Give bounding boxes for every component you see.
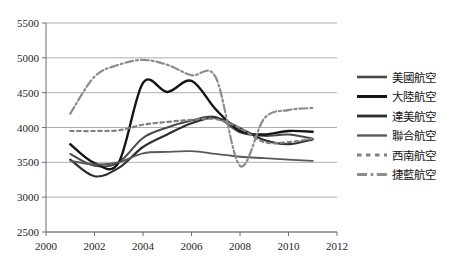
legend-label-1: 美國航空 — [392, 71, 436, 84]
data-series-group — [70, 60, 313, 177]
chart-legend: 美國航空大陸航空達美航空聯合航空西南航空捷藍航空 — [357, 71, 436, 182]
x-axis-tick-label: 2012 — [326, 240, 348, 252]
x-axis-tick-label: 2000 — [35, 240, 58, 252]
gridlines — [46, 23, 337, 232]
y-axis-tick-label: 5000 — [17, 52, 40, 64]
x-axis-tick-label: 2002 — [84, 240, 106, 252]
x-axis — [46, 232, 337, 236]
y-axis-tick-label: 4000 — [17, 122, 40, 134]
x-axis-tick-label: 2008 — [229, 240, 252, 252]
line-chart: 2500300035004000450050005500 20002002200… — [0, 0, 455, 274]
y-axis-tick-label: 3500 — [17, 156, 40, 168]
y-axis — [42, 23, 46, 232]
x-axis-tick-label: 2010 — [278, 240, 301, 252]
y-axis-tick-label: 5500 — [17, 17, 40, 29]
y-axis-tick-labels: 2500300035004000450050005500 — [17, 17, 40, 238]
x-axis-tick-label: 2004 — [132, 240, 155, 252]
legend-label-4: 聯合航空 — [392, 129, 436, 142]
x-axis-tick-label: 2006 — [181, 240, 204, 252]
x-axis-tick-labels: 2000200220042006200820102012 — [35, 240, 348, 252]
legend-label-3: 達美航空 — [392, 110, 436, 123]
chart-canvas: 2500300035004000450050005500 20002002200… — [0, 0, 455, 274]
legend-label-2: 大陸航空 — [392, 90, 436, 103]
legend-label-6: 捷藍航空 — [392, 168, 436, 181]
legend-label-5: 西南航空 — [392, 149, 436, 162]
y-axis-tick-label: 2500 — [17, 226, 40, 238]
y-axis-tick-label: 4500 — [17, 87, 40, 99]
y-axis-tick-label: 3000 — [17, 191, 40, 203]
